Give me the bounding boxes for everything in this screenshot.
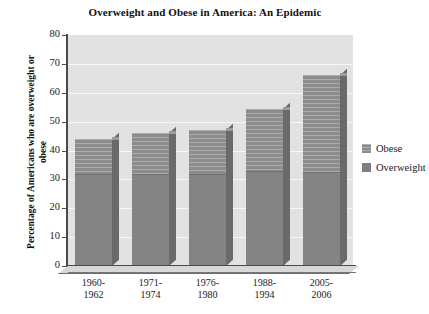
y-tick-label-60: 60 bbox=[36, 86, 60, 97]
x-tick-label-1960-1962: 1960-1962 bbox=[67, 277, 120, 300]
legend-label-overweight: Overweight bbox=[376, 162, 426, 173]
y-tick-label-20: 20 bbox=[36, 201, 60, 212]
y-tick-mark-50 bbox=[62, 122, 67, 123]
y-tick-mark-30 bbox=[62, 179, 67, 180]
bar-segment-obese[interactable] bbox=[132, 133, 169, 173]
bar-group[interactable] bbox=[75, 35, 112, 266]
bar-top-face bbox=[169, 131, 176, 134]
y-tick-label-50: 50 bbox=[36, 115, 60, 126]
y-tick-label-40: 40 bbox=[36, 144, 60, 155]
legend-item-obese[interactable]: Obese bbox=[362, 139, 426, 158]
y-tick-label-10: 10 bbox=[36, 230, 60, 241]
bar-stack[interactable] bbox=[189, 130, 226, 266]
bar-group[interactable] bbox=[132, 35, 169, 266]
chart-floor-front-edge bbox=[68, 272, 356, 273]
plot-area bbox=[68, 35, 353, 266]
chart-title: Overweight and Obese in America: An Epid… bbox=[55, 6, 355, 18]
bar-segment-obese[interactable] bbox=[189, 130, 226, 173]
bar-group[interactable] bbox=[189, 35, 226, 266]
bar-top-face bbox=[226, 128, 233, 131]
y-axis-tick-labels: 80706050403020100 bbox=[36, 0, 60, 314]
bar-top-face bbox=[112, 137, 119, 140]
x-tick-label-2005-2006: 2005-2006 bbox=[295, 277, 348, 300]
y-tick-mark-80 bbox=[62, 35, 67, 36]
bar-segment-overweight[interactable] bbox=[246, 171, 283, 266]
bar-segment-obese[interactable] bbox=[246, 109, 283, 171]
bar-stack[interactable] bbox=[132, 133, 169, 266]
bar-segment-overweight[interactable] bbox=[189, 174, 226, 266]
y-tick-label-0: 0 bbox=[36, 259, 60, 270]
bar-top-face bbox=[283, 107, 290, 110]
legend-item-overweight[interactable]: Overweight bbox=[362, 158, 426, 177]
bar-side-face bbox=[112, 133, 119, 266]
x-tick-label-1976-1980: 1976-1980 bbox=[181, 277, 234, 300]
bar-side-face bbox=[340, 69, 347, 266]
y-tick-mark-10 bbox=[62, 237, 67, 238]
bar-segment-obese[interactable] bbox=[303, 75, 340, 172]
bar-top-face bbox=[340, 73, 347, 76]
y-tick-mark-20 bbox=[62, 208, 67, 209]
bar-group[interactable] bbox=[246, 35, 283, 266]
bar-stack[interactable] bbox=[246, 109, 283, 266]
y-tick-mark-70 bbox=[62, 64, 67, 65]
bar-segment-overweight[interactable] bbox=[303, 172, 340, 266]
bar-stack[interactable] bbox=[303, 75, 340, 266]
bar-side-face bbox=[226, 124, 233, 266]
y-tick-label-80: 80 bbox=[36, 28, 60, 39]
y-tick-mark-60 bbox=[62, 93, 67, 94]
x-tick-label-1988-1994: 1988-1994 bbox=[238, 277, 291, 300]
bar-group[interactable] bbox=[303, 35, 340, 266]
chart-legend: Obese Overweight bbox=[362, 139, 426, 177]
legend-swatch-obese-icon bbox=[362, 144, 371, 153]
bar-segment-obese[interactable] bbox=[75, 139, 112, 174]
bar-side-face bbox=[169, 127, 176, 266]
x-tick-label-1971-1974: 1971-1974 bbox=[124, 277, 177, 300]
legend-swatch-overweight-icon bbox=[362, 163, 371, 172]
y-tick-label-70: 70 bbox=[36, 57, 60, 68]
y-tick-mark-0 bbox=[62, 266, 67, 267]
bar-segment-overweight[interactable] bbox=[132, 174, 169, 266]
legend-label-obese: Obese bbox=[376, 143, 402, 154]
y-tick-mark-40 bbox=[62, 151, 67, 152]
y-tick-label-30: 30 bbox=[36, 172, 60, 183]
bar-side-face bbox=[283, 102, 290, 266]
chart-figure: Overweight and Obese in America: An Epid… bbox=[0, 0, 429, 314]
bar-segment-overweight[interactable] bbox=[75, 174, 112, 266]
bar-stack[interactable] bbox=[75, 139, 112, 266]
